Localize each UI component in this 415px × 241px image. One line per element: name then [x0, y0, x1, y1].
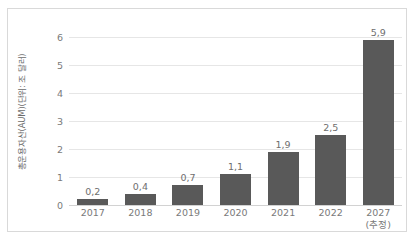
bar-slot-2018: 0,4 — [117, 37, 165, 205]
bar-value-2019: 0,7 — [164, 172, 212, 183]
x-tick-label-2022: 2022 — [307, 207, 355, 231]
plot-area: 6 5 4 3 2 1 0 0,2 — [69, 37, 402, 205]
x-tick-year-2020: 2020 — [223, 207, 247, 218]
bar-2027[interactable] — [363, 40, 394, 205]
bar-group: 0,2 0,4 0,7 1,1 1,9 — [69, 37, 402, 205]
y-axis-title-label: 총운용자산(AUM)(단위: 조 달러) — [15, 54, 27, 171]
y-tick-label-0: 0 — [57, 200, 63, 211]
x-tick-sub-2027: (추정) — [354, 219, 402, 231]
y-tick-label-3: 3 — [57, 116, 63, 127]
x-tick-year-2021: 2021 — [271, 207, 295, 218]
x-tick-label-2019: 2019 — [164, 207, 212, 231]
bar-2017[interactable] — [77, 199, 108, 205]
y-tick-label-5: 5 — [57, 60, 63, 71]
bar-slot-2020: 1,1 — [212, 37, 260, 205]
bar-value-2017: 0,2 — [69, 186, 117, 197]
x-tick-year-2017: 2017 — [81, 207, 105, 218]
y-tick-label-6: 6 — [57, 32, 63, 43]
y-tick-label-2: 2 — [57, 144, 63, 155]
bar-slot-2019: 0,7 — [164, 37, 212, 205]
bar-value-2021: 1,9 — [259, 139, 307, 150]
bar-slot-2022: 2,5 — [307, 37, 355, 205]
y-tick-label-1: 1 — [57, 172, 63, 183]
x-tick-label-2027: 2027 (추정) — [354, 207, 402, 231]
x-tick-label-2017: 2017 — [69, 207, 117, 231]
x-axis-labels: 2017 2018 2019 2020 2021 2022 — [69, 207, 402, 231]
bar-2021[interactable] — [268, 152, 299, 205]
bar-value-2027: 5,9 — [354, 27, 402, 38]
plot-wrapper: 6 5 4 3 2 1 0 0,2 — [60, 29, 405, 229]
bar-value-2022: 2,5 — [307, 122, 355, 133]
x-tick-label-2021: 2021 — [259, 207, 307, 231]
gridline-0-baseline: 0 — [69, 205, 402, 206]
x-tick-year-2027: 2027 — [366, 207, 390, 218]
y-axis-title: 총운용자산(AUM)(단위: 조 달러) — [12, 17, 30, 207]
x-tick-year-2018: 2018 — [128, 207, 152, 218]
x-tick-label-2020: 2020 — [212, 207, 260, 231]
bar-slot-2017: 0,2 — [69, 37, 117, 205]
x-tick-year-2022: 2022 — [319, 207, 343, 218]
bar-value-2020: 1,1 — [212, 161, 260, 172]
bar-slot-2027: 5,9 — [354, 37, 402, 205]
bar-2020[interactable] — [220, 174, 251, 205]
bar-value-2018: 0,4 — [117, 181, 165, 192]
bar-slot-2021: 1,9 — [259, 37, 307, 205]
bar-2019[interactable] — [172, 185, 203, 205]
x-tick-label-2018: 2018 — [117, 207, 165, 231]
y-tick-label-4: 4 — [57, 88, 63, 99]
bar-2018[interactable] — [125, 194, 156, 205]
chart-container: 총운용자산(AUM)(단위: 조 달러) 6 5 4 3 2 1 — [7, 8, 407, 232]
x-tick-year-2019: 2019 — [176, 207, 200, 218]
bar-2022[interactable] — [315, 135, 346, 205]
